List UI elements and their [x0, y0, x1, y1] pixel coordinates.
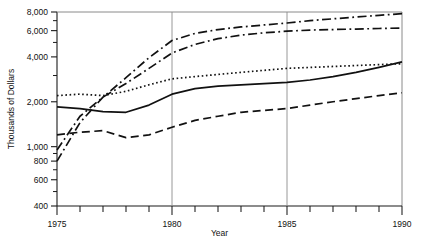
y-axis-title: Thousands of Dollars [6, 69, 16, 149]
x-tick-label-1990: 1990 [393, 219, 412, 229]
y-tick-label-600: 600 [34, 175, 48, 185]
x-axis-title: Year [211, 228, 228, 238]
y-tick-label-400: 400 [34, 201, 48, 211]
x-tick-label-1980: 1980 [163, 219, 182, 229]
y-tick-label-8000: 8,000 [27, 7, 49, 17]
series-line-series-dashed [57, 93, 402, 138]
series-line-series-dashdot-upper [57, 14, 402, 161]
series-line-series-dotted [57, 64, 402, 96]
y-tick-label-800: 800 [34, 156, 48, 166]
x-tick-label-1975: 1975 [48, 219, 67, 229]
x-tick-label-1985: 1985 [278, 219, 297, 229]
y-tick-label-6000: 6,000 [27, 26, 49, 36]
y-tick-label-1000: 1,000 [27, 142, 49, 152]
chart-container: 4006008001,0002,0004,0006,0008,000197519… [0, 0, 427, 238]
y-tick-label-4000: 4,000 [27, 52, 49, 62]
y-tick-label-2000: 2,000 [27, 97, 49, 107]
series-line-series-solid [57, 62, 402, 112]
line-chart: 4006008001,0002,0004,0006,0008,000197519… [0, 0, 427, 238]
